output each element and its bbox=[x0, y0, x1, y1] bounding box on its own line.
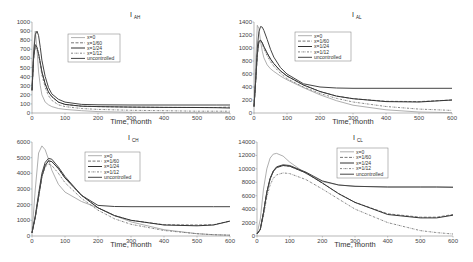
panel-i-al: 0200400600800100012001400010020030040050… bbox=[239, 11, 458, 126]
x-tick-label: 200 bbox=[315, 115, 326, 121]
y-tick-label: 500 bbox=[20, 65, 31, 71]
x-tick-label: 100 bbox=[60, 238, 71, 244]
x-tick-label: 500 bbox=[192, 238, 203, 244]
legend-label: uncontrolled bbox=[104, 174, 131, 180]
y-tick-label: 2000 bbox=[17, 202, 31, 208]
x-tick-label: 200 bbox=[93, 238, 104, 244]
x-tick-label: 200 bbox=[317, 238, 328, 244]
y-tick-label: 6000 bbox=[17, 139, 31, 145]
x-tick-label: 500 bbox=[414, 115, 425, 121]
y-tick-label: 100 bbox=[20, 101, 31, 107]
panel-i-ah: 0100200300400500600700800900100001002003… bbox=[17, 11, 236, 126]
x-axis-label: Time, month bbox=[332, 117, 373, 126]
y-tick-label: 4000 bbox=[242, 206, 256, 212]
x-tick-label: 100 bbox=[285, 238, 296, 244]
series-line-4 bbox=[32, 31, 230, 105]
y-tick-label: 800 bbox=[20, 37, 31, 43]
x-tick-label: 500 bbox=[192, 115, 203, 121]
x-tick-label: 400 bbox=[381, 115, 392, 121]
y-tick-label: 8000 bbox=[242, 179, 256, 185]
y-tick-label: 400 bbox=[242, 84, 253, 90]
y-tick-label: 4000 bbox=[17, 170, 31, 176]
y-tick-label: 1000 bbox=[17, 19, 31, 25]
panel-i-cl: 0200040006000800010000120001400001002003… bbox=[238, 134, 458, 249]
y-tick-label: 12000 bbox=[238, 152, 255, 158]
x-tick-label: 500 bbox=[415, 238, 426, 244]
chart-title: I bbox=[128, 134, 130, 141]
x-tick-label: 600 bbox=[448, 238, 459, 244]
panel-i-ch: 0100020003000400050006000010020030040050… bbox=[17, 134, 236, 249]
x-tick-label: 0 bbox=[30, 238, 34, 244]
chart-title-subscript: AH bbox=[134, 15, 140, 20]
y-tick-label: 1000 bbox=[17, 217, 31, 223]
x-tick-label: 600 bbox=[225, 115, 236, 121]
y-tick-label: 800 bbox=[242, 58, 253, 64]
chart-title-subscript: CH bbox=[132, 138, 139, 143]
legend-label: uncontrolled bbox=[87, 55, 114, 61]
x-axis-label: Time, month bbox=[334, 240, 375, 249]
series-line-2 bbox=[32, 45, 230, 108]
x-tick-label: 400 bbox=[383, 238, 394, 244]
series-line-3 bbox=[257, 173, 453, 234]
y-tick-label: 1000 bbox=[239, 45, 253, 51]
chart-title: I bbox=[352, 11, 354, 18]
x-tick-label: 0 bbox=[252, 115, 256, 121]
x-tick-label: 100 bbox=[60, 115, 71, 121]
x-tick-label: 0 bbox=[255, 238, 259, 244]
y-tick-label: 200 bbox=[242, 97, 253, 103]
y-tick-label: 700 bbox=[20, 46, 31, 52]
y-tick-label: 10000 bbox=[238, 166, 255, 172]
x-tick-label: 200 bbox=[93, 115, 104, 121]
y-tick-label: 3000 bbox=[17, 186, 31, 192]
chart-title-subscript: AL bbox=[356, 15, 362, 20]
y-tick-label: 900 bbox=[20, 28, 31, 34]
figure-canvas: 0100200300400500600700800900100001002003… bbox=[0, 0, 473, 262]
x-tick-label: 600 bbox=[447, 115, 458, 121]
y-tick-label: 5000 bbox=[17, 155, 31, 161]
chart-title: I bbox=[130, 11, 132, 18]
y-tick-label: 14000 bbox=[238, 139, 255, 145]
x-axis-label: Time, month bbox=[110, 117, 151, 126]
x-tick-label: 400 bbox=[159, 238, 170, 244]
y-tick-label: 600 bbox=[242, 71, 253, 77]
y-tick-label: 400 bbox=[20, 74, 31, 80]
series-line-2 bbox=[254, 40, 452, 106]
series-line-4 bbox=[254, 27, 452, 107]
y-tick-label: 1200 bbox=[239, 32, 253, 38]
legend-label: uncontrolled bbox=[314, 54, 341, 60]
x-tick-label: 0 bbox=[30, 115, 34, 121]
x-tick-label: 400 bbox=[159, 115, 170, 121]
series-line-3 bbox=[254, 41, 452, 111]
x-tick-label: 100 bbox=[282, 115, 293, 121]
legend-label: uncontrolled bbox=[356, 171, 383, 177]
x-axis-label: Time, month bbox=[110, 240, 151, 249]
chart-title-subscript: CL bbox=[357, 138, 363, 143]
chart-title: I bbox=[353, 134, 355, 141]
y-tick-label: 200 bbox=[20, 92, 31, 98]
y-tick-label: 2000 bbox=[242, 220, 256, 226]
x-tick-label: 600 bbox=[225, 238, 236, 244]
series-line-0 bbox=[254, 25, 452, 112]
y-tick-label: 600 bbox=[20, 55, 31, 61]
y-tick-label: 1400 bbox=[239, 19, 253, 25]
y-tick-label: 300 bbox=[20, 83, 31, 89]
y-tick-label: 6000 bbox=[242, 193, 256, 199]
series-line-1 bbox=[32, 45, 230, 108]
